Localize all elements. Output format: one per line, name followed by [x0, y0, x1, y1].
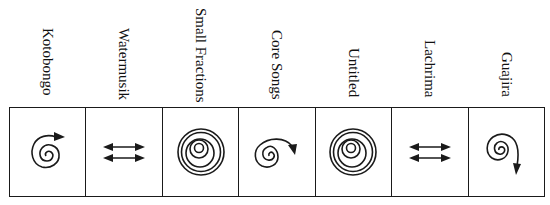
concentric-circles-icon — [321, 120, 385, 184]
label-col: Untitled — [315, 0, 392, 107]
concentric-circles-icon — [169, 120, 233, 184]
column-title: Guajira — [499, 52, 514, 97]
label-col: Small Fractions — [162, 0, 239, 107]
cell-watermusik — [86, 108, 162, 196]
spiral-arrow-right-icon — [16, 120, 80, 184]
symbol-table — [9, 107, 545, 197]
column-title: Core Songs — [269, 30, 284, 100]
cell-core-songs — [239, 108, 315, 196]
column-title: Kotobongo — [40, 28, 55, 96]
cell-kotobongo — [10, 108, 86, 196]
column-labels: Kotobongo Watermusik Small Fractions Cor… — [9, 0, 545, 107]
cell-small-fractions — [163, 108, 239, 196]
spiral-arrow-down-right-icon — [245, 120, 309, 184]
double-arrows-icon — [398, 120, 462, 184]
label-col: Lachrima — [392, 0, 469, 107]
cell-guajira — [469, 108, 544, 196]
column-title: Lachrima — [422, 40, 437, 97]
double-arrows-icon — [92, 120, 156, 184]
label-col: Guajira — [468, 0, 545, 107]
label-col: Watermusik — [86, 0, 163, 107]
column-title: Watermusik — [116, 28, 131, 100]
label-col: Core Songs — [239, 0, 316, 107]
spiral-arrow-down-icon — [474, 120, 538, 184]
column-title: Untitled — [346, 48, 361, 97]
cell-lachrima — [392, 108, 468, 196]
cell-untitled — [316, 108, 392, 196]
column-title: Small Fractions — [193, 8, 208, 103]
label-col: Kotobongo — [9, 0, 86, 107]
